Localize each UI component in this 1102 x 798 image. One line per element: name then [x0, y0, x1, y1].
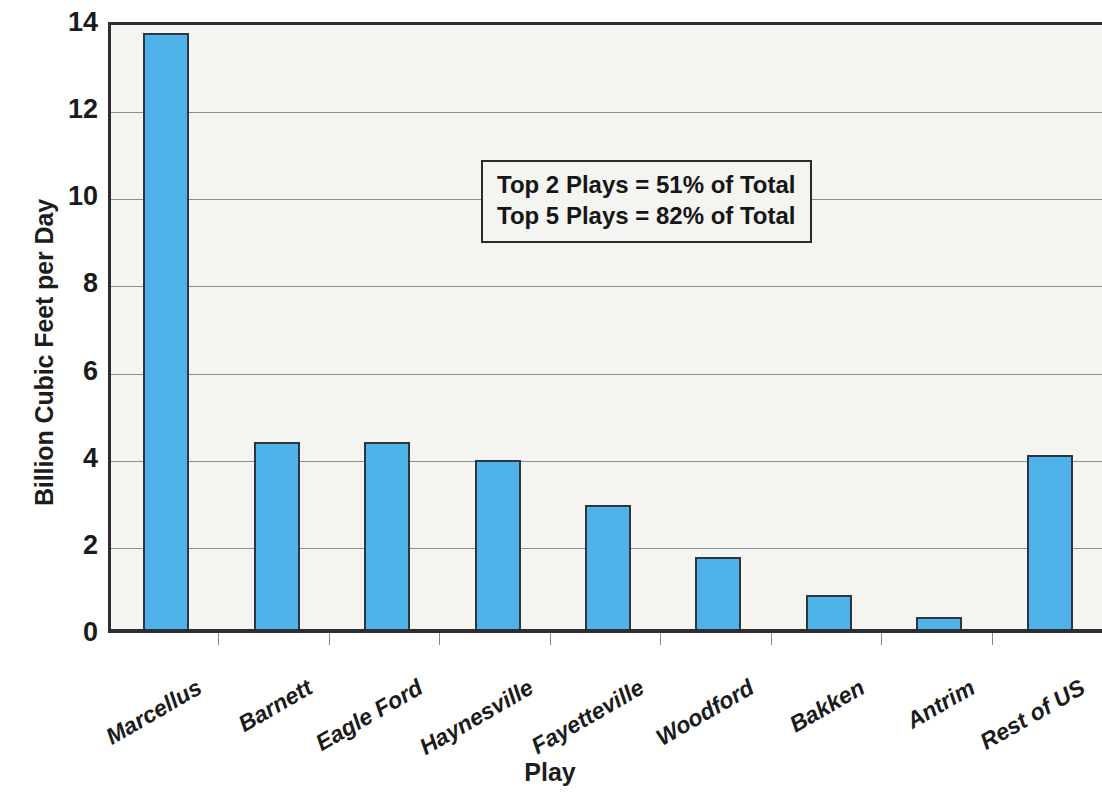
bar: [475, 460, 521, 632]
bar: [806, 595, 852, 632]
annotation-line: Top 5 Plays = 82% of Total: [497, 201, 796, 232]
y-axis-tick-label: 6: [34, 357, 98, 384]
x-axis-title: Play: [0, 758, 1100, 787]
x-axis-tick-label: Antrim: [902, 674, 980, 734]
y-axis-tick-label: 14: [34, 9, 98, 36]
x-axis-tick-label: Fayetteville: [526, 674, 648, 760]
y-axis-tick-label: 4: [34, 444, 98, 471]
bar: [364, 442, 410, 632]
bar: [254, 442, 300, 632]
plot-area: [108, 22, 1102, 632]
x-axis-tick-labels: MarcellusBarnettEagle FordHaynesvilleFay…: [108, 636, 1102, 746]
y-axis-tick-labels: 02468101214: [34, 0, 98, 798]
annotation-line: Top 2 Plays = 51% of Total: [497, 170, 796, 201]
x-axis-tick-label: Woodford: [652, 674, 759, 751]
bar: [585, 505, 631, 632]
y-axis-tick-label: 0: [34, 619, 98, 646]
y-axis-tick-label: 8: [34, 270, 98, 297]
x-axis-tick-label: Eagle Ford: [311, 674, 427, 757]
bar: [695, 557, 741, 632]
x-axis-tick-label: Barnett: [234, 674, 317, 738]
x-axis-tick-label: Bakken: [785, 674, 869, 738]
y-axis-tick-label: 10: [34, 183, 98, 210]
x-axis-tick-label: Marcellus: [101, 674, 206, 750]
bars: [111, 25, 1102, 632]
annotation-box: Top 2 Plays = 51% of TotalTop 5 Plays = …: [481, 160, 812, 243]
y-axis-tick-label: 12: [34, 96, 98, 123]
bar: [143, 33, 189, 632]
x-axis-tick-label: Haynesville: [415, 674, 538, 761]
y-axis-tick-label: 2: [34, 531, 98, 558]
bar: [1027, 455, 1073, 632]
x-axis-tick-label: Rest of US: [976, 674, 1090, 756]
